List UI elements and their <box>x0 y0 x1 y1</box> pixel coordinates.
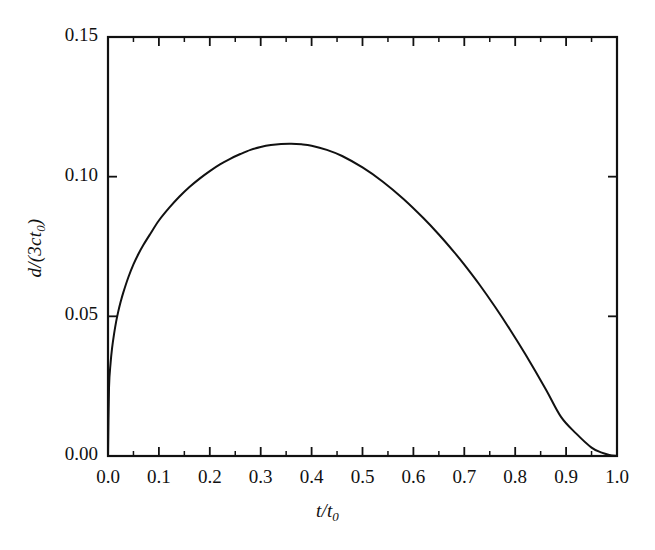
data-series-curve <box>108 144 617 456</box>
x-axis-label-text: t/t <box>316 500 332 521</box>
x-tick-label: 1.0 <box>587 466 647 488</box>
y-tick-label: 0.10 <box>65 164 98 186</box>
y-axis-label-text: d <box>24 268 45 278</box>
y-axis-label-subscript: 0 <box>33 225 48 232</box>
y-tick-label: 0.00 <box>65 443 98 465</box>
chart-figure: d/(3ct0) t/t0 0.000.050.100.150.00.10.20… <box>0 0 655 550</box>
y-axis-label-denom: /(3ct <box>24 232 45 268</box>
x-axis-label-subscript: 0 <box>332 509 339 524</box>
y-axis-label-wrapper: d/(3ct0) <box>22 178 48 318</box>
plot-frame <box>108 37 617 456</box>
y-axis-label-paren: ) <box>24 219 45 226</box>
y-tick-label: 0.15 <box>65 24 98 46</box>
x-axis-label: t/t0 <box>0 500 655 522</box>
y-axis-label: d/(3ct0) <box>24 219 46 278</box>
y-tick-label: 0.05 <box>65 303 98 325</box>
